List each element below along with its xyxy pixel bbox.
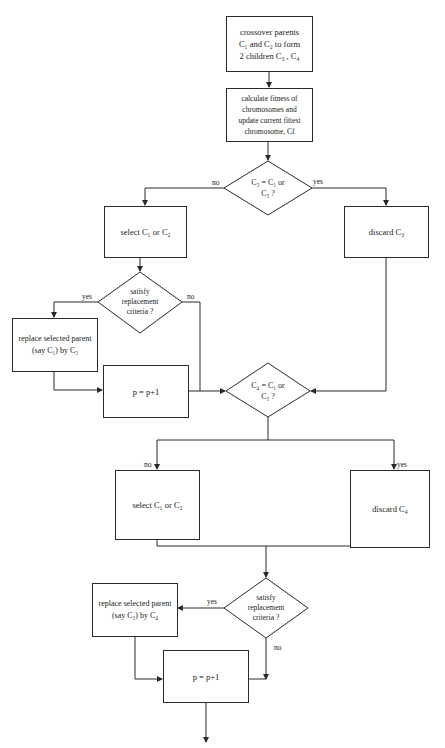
fitness-box: calculate fitness of chromosomes and upd… bbox=[226, 88, 313, 142]
criteria1-text: satisfy replacement criteria ? bbox=[122, 287, 159, 317]
replace2-text: replace selected parent (say C₂) by C₄ bbox=[99, 598, 172, 622]
decision1-text: C₃ = C₁ or C₂ ? bbox=[251, 177, 284, 199]
decision1-yes-label: yes bbox=[313, 177, 323, 186]
crossover-text: crossover parents C₁ and C₂ to form 2 ch… bbox=[239, 26, 300, 62]
decision1-no-label: no bbox=[212, 178, 220, 187]
fitness-text: calculate fitness of chromosomes and upd… bbox=[238, 93, 300, 137]
decision1-text-wrap: C₃ = C₁ or C₂ ? bbox=[236, 172, 300, 204]
select2-text: select C₁ or C₂ bbox=[132, 499, 182, 511]
criteria2-no-label: no bbox=[274, 643, 282, 652]
criteria1-no-label: no bbox=[187, 292, 195, 301]
select1-box: select C₁ or C₂ bbox=[104, 206, 187, 258]
criteria2-yes-label: yes bbox=[207, 597, 217, 606]
connector-lines bbox=[0, 0, 445, 748]
select1-text: select C₁ or C₂ bbox=[120, 226, 170, 238]
discard1-box: discard C₃ bbox=[344, 206, 429, 258]
increment2-text: p = p+1 bbox=[193, 671, 220, 683]
decision2-text-wrap: C₄ = C₁ or C₂ ? bbox=[236, 375, 300, 407]
decision2-text: C₄ = C₁ or C₂ ? bbox=[251, 380, 284, 402]
discard1-text: discard C₃ bbox=[369, 226, 404, 238]
crossover-box: crossover parents C₁ and C₂ to form 2 ch… bbox=[226, 16, 313, 72]
increment1-text: p = p+1 bbox=[133, 386, 160, 398]
replace1-text: replace selected parent (say C₁) by C₃ bbox=[19, 333, 92, 357]
criteria2-text: satisfy replacement criteria ? bbox=[248, 593, 285, 623]
discard2-text: discard C₄ bbox=[372, 503, 407, 515]
criteria2-text-wrap: satisfy replacement criteria ? bbox=[234, 590, 298, 626]
criteria1-text-wrap: satisfy replacement criteria ? bbox=[108, 284, 172, 320]
replace1-box: replace selected parent (say C₁) by C₃ bbox=[12, 318, 98, 372]
decision2-no-label: no bbox=[144, 460, 152, 469]
increment1-box: p = p+1 bbox=[103, 365, 189, 418]
select2-box: select C₁ or C₂ bbox=[115, 470, 200, 540]
replace2-box: replace selected parent (say C₂) by C₄ bbox=[92, 583, 178, 637]
decision2-yes-label: yes bbox=[397, 460, 407, 469]
discard2-box: discard C₄ bbox=[350, 470, 430, 548]
criteria1-yes-label: yes bbox=[82, 292, 92, 301]
increment2-box: p = p+1 bbox=[163, 650, 249, 703]
